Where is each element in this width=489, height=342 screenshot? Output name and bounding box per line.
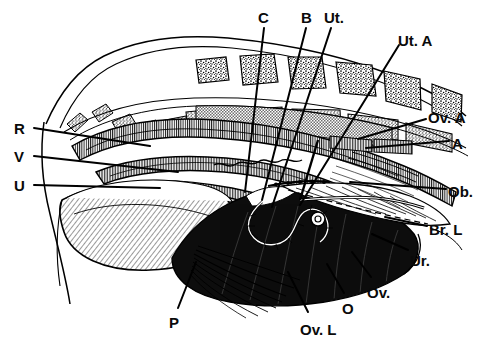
label-b: B [301, 10, 312, 25]
label-brl: Br. L [429, 222, 462, 237]
label-ur: Ur. [410, 253, 430, 268]
label-o: O [342, 301, 354, 316]
label-c: C [258, 10, 269, 25]
label-ova: Ov. A [428, 110, 466, 125]
label-u: U [14, 178, 25, 193]
label-ovl: Ov. L [300, 322, 336, 337]
label-r: R [14, 121, 25, 136]
label-a: A [452, 136, 463, 151]
label-ov: Ov. [367, 285, 390, 300]
label-ut: Ut. [324, 10, 344, 25]
anatomical-diagram [0, 0, 489, 342]
label-uta: Ut. A [398, 33, 432, 48]
label-p: P [169, 315, 179, 330]
label-ob: Ob. [448, 184, 473, 199]
label-v: V [14, 149, 24, 164]
